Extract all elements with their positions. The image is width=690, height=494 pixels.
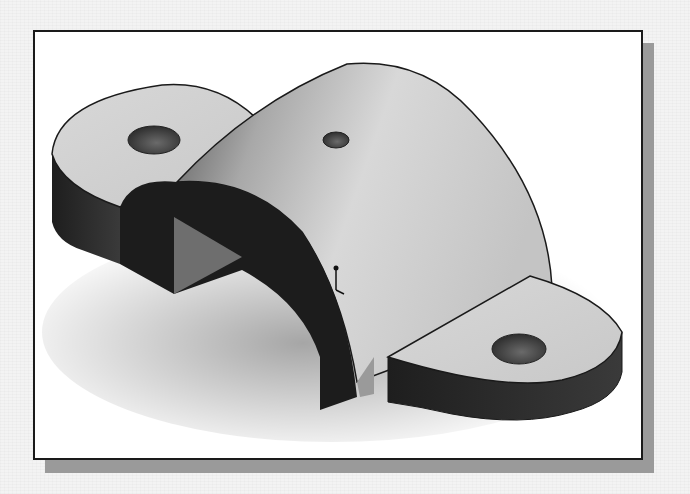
right-flange-hole	[492, 334, 546, 364]
cad-model-render	[33, 30, 643, 460]
top-hole	[323, 132, 349, 148]
left-flange-hole	[128, 126, 180, 154]
figure-frame: 3D solid model of a pipe clamp / saddle …	[33, 30, 643, 460]
